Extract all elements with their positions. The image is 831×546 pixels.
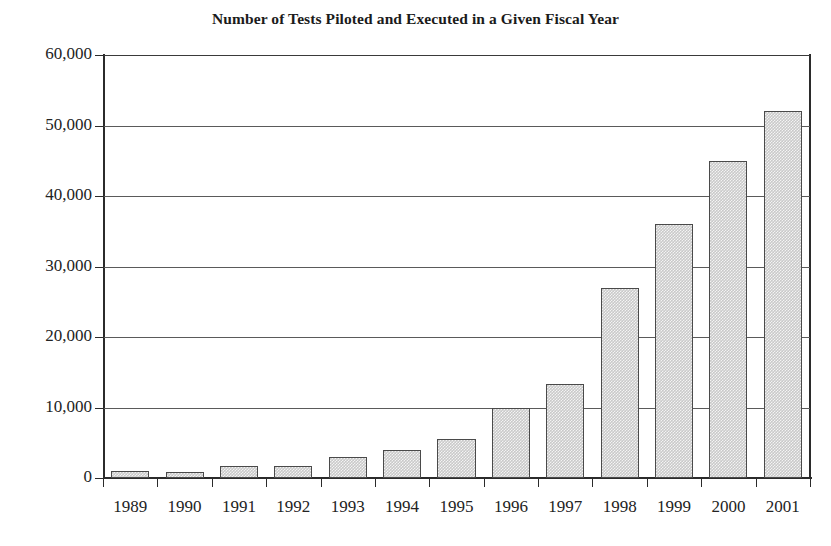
bar-1992	[274, 466, 312, 478]
y-axis-tick-label: 60,000	[6, 44, 92, 64]
y-axis-tick-label: 0	[6, 467, 92, 487]
bar-chart-figure: Number of Tests Piloted and Executed in …	[0, 0, 831, 546]
gridline	[103, 337, 810, 338]
x-axis-tick-label: 1991	[212, 497, 266, 517]
plot-area	[103, 55, 810, 478]
chart-title: Number of Tests Piloted and Executed in …	[0, 10, 831, 28]
x-axis-tick	[375, 479, 376, 487]
y-axis-tick	[95, 337, 104, 338]
y-axis-tick	[95, 408, 104, 409]
x-axis-tick-label: 1997	[538, 497, 592, 517]
bar-1994	[383, 450, 421, 478]
gridline	[103, 267, 810, 268]
bar-2001	[764, 111, 802, 478]
y-axis-tick	[95, 267, 104, 268]
y-axis-tick-label: 20,000	[6, 326, 92, 346]
x-axis-tick-label: 1990	[157, 497, 211, 517]
bar-1991	[220, 466, 258, 478]
x-axis-tick	[484, 479, 485, 487]
x-axis-tick-label: 1992	[266, 497, 320, 517]
bar-2000	[709, 161, 747, 478]
y-axis-labels: 010,00020,00030,00040,00050,00060,000	[0, 0, 92, 546]
y-axis-tick	[95, 55, 104, 56]
x-axis-tick	[538, 479, 539, 487]
y-axis-tick	[95, 126, 104, 127]
bar-1998	[601, 288, 639, 478]
x-axis-tick	[647, 479, 648, 487]
bar-1996	[492, 408, 530, 479]
y-axis-tick-label: 40,000	[6, 185, 92, 205]
gridline	[103, 55, 810, 56]
y-axis-tick-label: 30,000	[6, 256, 92, 276]
x-axis-tick-label: 1989	[103, 497, 157, 517]
x-axis-tick-label: 1998	[592, 497, 646, 517]
x-axis-tick	[266, 479, 267, 487]
bar-1999	[655, 224, 693, 478]
x-axis-tick	[212, 479, 213, 487]
x-axis-tick	[429, 479, 430, 487]
x-axis-tick-label: 1999	[647, 497, 701, 517]
gridline	[103, 196, 810, 197]
bar-1990	[166, 472, 204, 478]
x-axis-tick	[756, 479, 757, 487]
y-axis-tick-label: 10,000	[6, 397, 92, 417]
y-axis-tick-label: 50,000	[6, 115, 92, 135]
x-axis-tick-label: 1995	[429, 497, 483, 517]
x-axis-tick-label: 2000	[701, 497, 755, 517]
x-axis-tick-label: 2001	[756, 497, 810, 517]
x-axis-tick	[103, 479, 104, 487]
x-axis-tick-label: 1996	[484, 497, 538, 517]
gridline	[103, 126, 810, 127]
y-axis-tick	[95, 196, 104, 197]
bar-1997	[546, 384, 584, 478]
x-axis-tick-label: 1994	[375, 497, 429, 517]
x-axis-tick	[592, 479, 593, 487]
x-axis-tick-label: 1993	[321, 497, 375, 517]
bar-1995	[437, 439, 475, 478]
x-axis-tick	[701, 479, 702, 487]
x-axis-tick	[321, 479, 322, 487]
bar-1989	[111, 471, 149, 478]
gridline	[103, 408, 810, 409]
bar-1993	[329, 457, 367, 478]
x-axis-tick	[157, 479, 158, 487]
x-axis-tick	[810, 479, 811, 487]
